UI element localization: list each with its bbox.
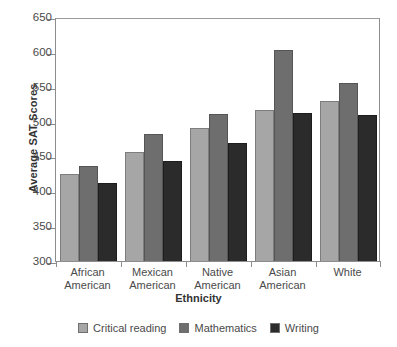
x-tick-mark xyxy=(380,261,381,267)
x-tick-label-line: Asian xyxy=(250,266,315,279)
x-tick-label-line: Mexican xyxy=(120,266,185,279)
bar-writing xyxy=(163,161,182,261)
x-tick-label-line: Native xyxy=(185,266,250,279)
legend-label: Mathematics xyxy=(194,322,256,334)
bar-writing xyxy=(228,143,247,261)
legend-item: Writing xyxy=(270,322,319,334)
y-axis-title: Average SAT Scores xyxy=(27,43,39,233)
legend-item: Critical reading xyxy=(78,322,166,334)
x-tick-label-line: African xyxy=(55,266,120,279)
x-tick-label-line: White xyxy=(315,266,380,279)
bar-critical-reading xyxy=(125,152,144,261)
chart-legend: Critical readingMathematicsWriting xyxy=(0,322,397,334)
bar-group xyxy=(124,17,183,261)
y-tick-label: 500 xyxy=(33,116,52,128)
bar-mathematics xyxy=(79,166,98,262)
legend-label: Critical reading xyxy=(93,322,166,334)
bar-group xyxy=(59,17,118,261)
x-tick-label-line: American xyxy=(120,279,185,292)
x-tick-label: AfricanAmerican xyxy=(55,266,120,291)
bar-critical-reading xyxy=(255,110,274,261)
x-tick-label-line: American xyxy=(185,279,250,292)
x-tick-label: NativeAmerican xyxy=(185,266,250,291)
y-tick-label: 600 xyxy=(33,46,52,58)
bar-critical-reading xyxy=(60,174,79,261)
y-tick-label: 400 xyxy=(33,185,52,197)
bar-writing xyxy=(293,113,312,261)
bar-mathematics xyxy=(209,114,228,261)
x-axis-title: Ethnicity xyxy=(0,292,397,304)
x-tick-label-line: American xyxy=(250,279,315,292)
bar-mathematics xyxy=(144,134,163,261)
y-tick-label: 650 xyxy=(33,11,52,23)
bar-critical-reading xyxy=(190,128,209,261)
legend-swatch xyxy=(78,323,88,333)
legend-item: Mathematics xyxy=(179,322,256,334)
y-tick-label: 550 xyxy=(33,81,52,93)
y-tick-label: 450 xyxy=(33,150,52,162)
x-tick-label: AsianAmerican xyxy=(250,266,315,291)
x-tick-label: White xyxy=(315,266,380,279)
x-tick-label-line: American xyxy=(55,279,120,292)
x-tick-label: MexicanAmerican xyxy=(120,266,185,291)
bar-group xyxy=(319,17,378,261)
bar-writing xyxy=(98,183,117,261)
legend-swatch xyxy=(179,323,189,333)
bar-mathematics xyxy=(274,50,293,261)
y-tick-label: 350 xyxy=(33,220,52,232)
bar-critical-reading xyxy=(320,101,339,261)
bar-group xyxy=(254,17,313,261)
sat-scores-bar-chart: Average SAT Scores 300350400450500550600… xyxy=(0,0,397,347)
bar-writing xyxy=(358,115,377,261)
legend-swatch xyxy=(270,323,280,333)
plot-area: 300350400450500550600650 xyxy=(55,18,380,262)
y-tick-label: 300 xyxy=(33,255,52,267)
bar-group xyxy=(189,17,248,261)
bar-mathematics xyxy=(339,83,358,261)
legend-label: Writing xyxy=(285,322,319,334)
